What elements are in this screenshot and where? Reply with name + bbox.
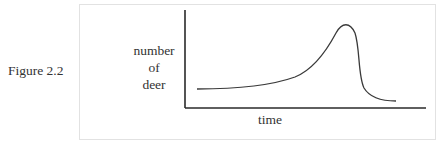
line-chart [0, 0, 443, 150]
population-curve [197, 25, 396, 101]
